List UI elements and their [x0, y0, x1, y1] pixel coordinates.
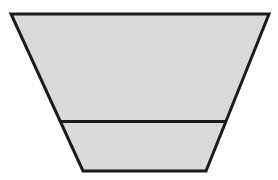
- diagram-canvas: [0, 0, 278, 180]
- trapezoid-figure: [0, 0, 278, 180]
